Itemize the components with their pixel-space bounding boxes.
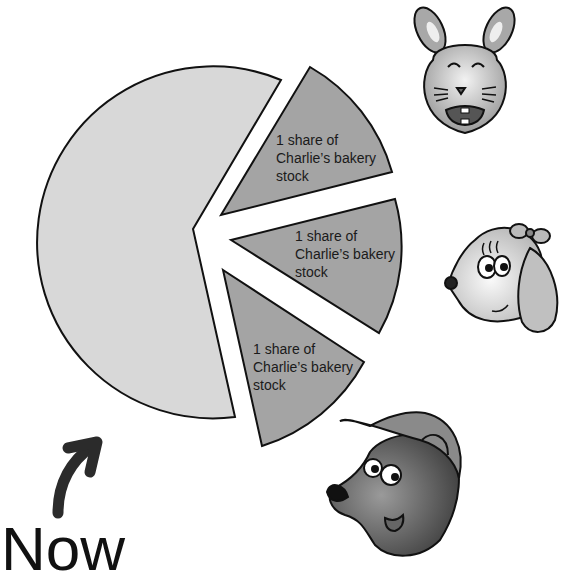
rabbit-character-icon: [408, 3, 521, 133]
arrow-icon: [58, 442, 97, 513]
label-line: 1 share of: [253, 340, 353, 358]
share-slice-2-label: 1 share of Charlie’s bakery stock: [295, 227, 395, 281]
share-slice-3-label: 1 share of Charlie’s bakery stock: [253, 340, 353, 394]
label-line: 1 share of: [295, 227, 395, 245]
label-line: Charlie’s bakery: [253, 358, 353, 376]
label-line: stock: [295, 263, 395, 281]
label-line: stock: [276, 167, 376, 185]
label-line: 1 share of: [276, 131, 376, 149]
label-line: Charlie’s bakery: [295, 245, 395, 263]
label-line: stock: [253, 376, 353, 394]
caption-now: Now: [1, 518, 125, 580]
pie-diagram: [0, 0, 577, 585]
share-slice-1-label: 1 share of Charlie’s bakery stock: [276, 131, 376, 185]
bear-character-icon: [327, 412, 461, 555]
dog-character-icon: [445, 224, 557, 332]
label-line: Charlie’s bakery: [276, 149, 376, 167]
